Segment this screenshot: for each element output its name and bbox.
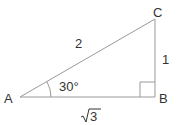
- side-ac: [20, 19, 155, 97]
- angle-arc-a: [47, 82, 51, 98]
- vertex-label-a: A: [4, 92, 13, 105]
- triangle-figure: [0, 0, 177, 125]
- right-angle-marker: [140, 82, 155, 97]
- hypotenuse-length-label: 2: [75, 37, 82, 50]
- angle-a-label: 30°: [59, 80, 79, 93]
- adjacent-side-length-label: 3: [80, 108, 102, 124]
- vertex-label-b: B: [159, 92, 168, 105]
- opposite-side-length-label: 1: [162, 53, 169, 66]
- sqrt-radicand: 3: [90, 110, 97, 123]
- vertex-label-c: C: [153, 6, 162, 19]
